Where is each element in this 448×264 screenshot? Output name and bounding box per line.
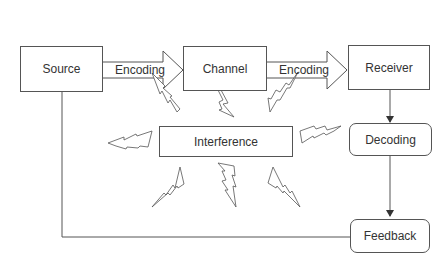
node-decoding: Decoding xyxy=(349,123,432,156)
lightning-icon xyxy=(218,163,236,207)
node-source: Source xyxy=(20,46,103,92)
lightning-icon xyxy=(108,131,152,149)
node-feedback: Feedback xyxy=(350,219,430,253)
edge-label-encoding-2: Encoding xyxy=(276,62,332,78)
node-source-label: Source xyxy=(42,62,80,76)
node-receiver-label: Receiver xyxy=(365,61,412,75)
edge-label-encoding-1: Encoding xyxy=(112,62,168,78)
node-channel: Channel xyxy=(183,46,267,91)
lightning-icon xyxy=(152,167,184,207)
node-interference-label: Interference xyxy=(194,135,258,149)
node-receiver: Receiver xyxy=(348,45,430,90)
node-decoding-label: Decoding xyxy=(365,133,416,147)
lightning-icon xyxy=(300,126,341,143)
node-channel-label: Channel xyxy=(203,62,248,76)
node-feedback-label: Feedback xyxy=(364,229,417,243)
node-interference: Interference xyxy=(159,126,293,157)
lightning-icon xyxy=(268,167,300,207)
